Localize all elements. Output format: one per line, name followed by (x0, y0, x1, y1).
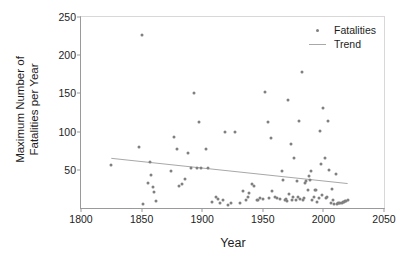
data-point (175, 148, 178, 151)
data-point (290, 199, 293, 202)
data-point (247, 196, 250, 199)
data-point (306, 189, 309, 192)
data-point (140, 33, 143, 36)
data-point (317, 197, 320, 200)
data-point (266, 121, 269, 124)
data-point (141, 203, 144, 206)
x-tick-mark (141, 208, 142, 212)
data-point (295, 180, 298, 183)
data-point (261, 197, 264, 200)
data-point (233, 130, 236, 133)
data-point (327, 119, 330, 122)
x-tick-mark (384, 208, 385, 212)
data-point (138, 145, 141, 148)
x-axis-title: Year (80, 236, 386, 250)
scatter-chart: Maximum Number of Fatalities per Year 50… (0, 0, 410, 262)
data-point (293, 156, 296, 159)
data-point (312, 195, 315, 198)
data-point (321, 194, 324, 197)
data-point (334, 173, 337, 176)
data-point (315, 188, 318, 191)
data-point (300, 71, 303, 74)
data-point (238, 201, 241, 204)
legend-item-fatalities: Fatalities (307, 23, 376, 37)
data-point (150, 174, 153, 177)
x-tick-mark (262, 208, 263, 212)
legend-line-icon (307, 44, 329, 45)
data-point (242, 190, 245, 193)
data-point (319, 162, 322, 165)
data-point (323, 156, 326, 159)
x-tick-mark (202, 208, 203, 212)
data-point (303, 197, 306, 200)
data-point (110, 164, 113, 167)
data-point (309, 179, 312, 182)
data-point (169, 170, 172, 173)
x-tick-mark (323, 208, 324, 212)
x-tick-label: 1850 (130, 213, 153, 225)
data-point (199, 167, 202, 170)
data-point (230, 201, 233, 204)
data-point (253, 184, 256, 187)
data-point (248, 191, 251, 194)
data-point (278, 197, 281, 200)
data-point (173, 135, 176, 138)
data-point (346, 199, 349, 202)
data-point (210, 200, 213, 203)
data-point (149, 161, 152, 164)
data-point (316, 200, 319, 203)
data-point (282, 179, 285, 182)
x-tick-label: 2000 (312, 213, 335, 225)
data-point (216, 197, 219, 200)
data-point (286, 200, 289, 203)
data-point (192, 91, 195, 94)
x-tick-label: 2050 (372, 213, 395, 225)
data-point (289, 142, 292, 145)
data-point (271, 190, 274, 193)
chart-legend: Fatalities Trend (307, 23, 376, 51)
data-point (267, 197, 270, 200)
plot-area: 50100150200250 180018501900195020002050 … (80, 16, 385, 209)
data-point (226, 203, 229, 206)
x-tick-label: 1900 (191, 213, 214, 225)
data-point (146, 181, 149, 184)
data-point (180, 183, 183, 186)
data-point (330, 187, 333, 190)
data-point (197, 121, 200, 124)
y-tick-mark (77, 131, 81, 132)
data-point (184, 177, 187, 180)
data-point (264, 90, 267, 93)
data-point (288, 193, 291, 196)
data-point (328, 168, 331, 171)
data-point (311, 198, 314, 201)
data-point (196, 167, 199, 170)
data-point (329, 201, 332, 204)
data-point (281, 170, 284, 173)
legend-item-trend: Trend (307, 37, 376, 51)
data-point (305, 180, 308, 183)
legend-dot-icon (307, 29, 329, 32)
data-point (221, 199, 224, 202)
y-tick-mark (77, 55, 81, 56)
data-point (207, 167, 210, 170)
data-point (298, 119, 301, 122)
y-tick-mark (77, 93, 81, 94)
data-point (270, 137, 273, 140)
x-tick-mark (81, 208, 82, 212)
y-tick-mark (77, 169, 81, 170)
x-tick-label: 1950 (251, 213, 274, 225)
data-point (155, 200, 158, 203)
x-tick-label: 1800 (69, 213, 92, 225)
data-point (186, 151, 189, 154)
data-point (322, 106, 325, 109)
data-point (307, 174, 310, 177)
data-point (326, 196, 329, 199)
data-point (152, 190, 155, 193)
data-point (204, 148, 207, 151)
data-point (287, 99, 290, 102)
data-point (190, 167, 193, 170)
data-point (151, 185, 154, 188)
y-axis-title: Maximum Number of Fatalities per Year (14, 15, 41, 205)
data-point (318, 129, 321, 132)
data-point (224, 130, 227, 133)
